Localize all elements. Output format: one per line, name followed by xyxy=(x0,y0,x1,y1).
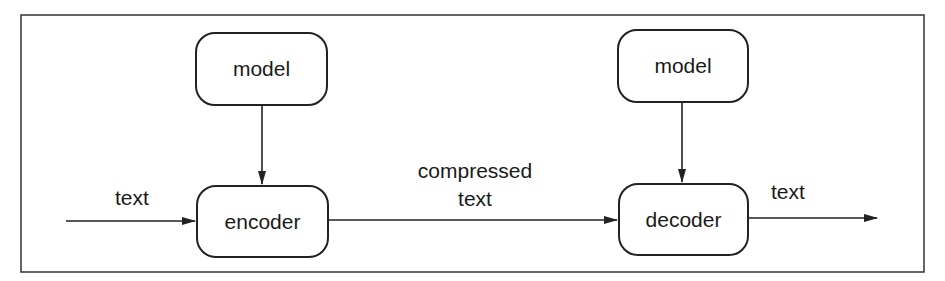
compressed-text-label-line2: text xyxy=(405,187,545,211)
encoder-node: encoder xyxy=(196,185,329,258)
diagram-canvas xyxy=(0,0,945,281)
model-left-node: model xyxy=(195,32,328,106)
outer-frame xyxy=(21,15,924,272)
decoder-node: decoder xyxy=(618,183,749,256)
encoder-label: encoder xyxy=(225,210,301,234)
decoder-label: decoder xyxy=(646,208,722,232)
model-left-label: model xyxy=(233,57,290,81)
input-text-label: text xyxy=(115,186,149,210)
compressed-text-label-line1: compressed xyxy=(405,159,545,183)
model-right-label: model xyxy=(654,54,711,78)
output-text-label: text xyxy=(771,180,805,204)
model-right-node: model xyxy=(617,29,749,103)
